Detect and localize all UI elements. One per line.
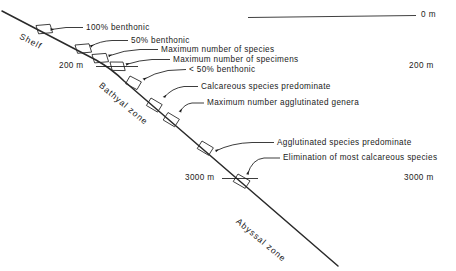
seafloor-profile-diagram: Shelf Bathyal zone Abyssal zone 0 m 200 … (0, 0, 456, 271)
depth-label-200m-right: 200 m (409, 62, 434, 70)
depth-label-3000m-right: 3000 m (404, 174, 434, 182)
annotation-agglutinated-species-predominate: Agglutinated species predominate (277, 139, 412, 147)
annotation-calcareous-species-predominate: Calcareous species predominate (201, 83, 331, 91)
annotation-100-percent-benthonic: 100% benthonic (86, 24, 150, 32)
depth-label-200m-profile: 200 m (59, 62, 84, 70)
annotation-elimination-of-most-calcareous-species: Elimination of most calcareous species (283, 154, 437, 162)
annotation-less-than-50-percent-benthonic: < 50% benthonic (189, 66, 255, 74)
annotation-maximum-number-of-species: Maximum number of species (161, 46, 274, 54)
depth-label-3000m-profile: 3000 m (185, 174, 214, 182)
sea-level-line (248, 16, 416, 18)
annotation-maximum-number-of-specimens: Maximum number of specimens (173, 56, 298, 64)
depth-label-sea-level-right: 0 m (421, 11, 436, 19)
annotation-50-percent-benthonic: 50% benthonic (131, 37, 190, 45)
annotation-maximum-number-agglutinated-genera: Maximum number agglutinated genera (207, 99, 359, 107)
diagram-canvas (0, 0, 456, 271)
